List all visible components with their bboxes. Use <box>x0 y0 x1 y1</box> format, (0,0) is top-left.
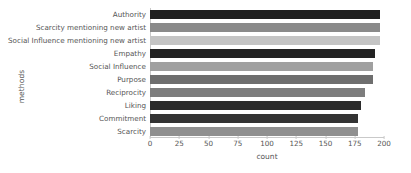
x-axis-tick-labels: 0255075100125150175200 <box>150 139 384 151</box>
bar <box>150 127 358 135</box>
x-axis-tick-mark <box>384 136 385 139</box>
x-axis-tick-mark <box>296 136 297 139</box>
x-axis-tick-label: 150 <box>319 139 333 148</box>
x-axis-tick-mark <box>325 136 326 139</box>
y-axis-tick-label: Social Influence <box>0 62 146 71</box>
y-axis-tick-label: Empathy <box>0 49 146 58</box>
x-axis-tick-mark <box>208 136 209 139</box>
bar <box>150 75 373 83</box>
x-axis-tick-label: 0 <box>148 139 153 148</box>
bar-row <box>150 73 384 86</box>
x-axis-tick-mark <box>354 136 355 139</box>
x-axis-tick-mark <box>179 136 180 139</box>
bar <box>150 23 380 31</box>
x-axis-tick-label: 125 <box>289 139 303 148</box>
x-axis-tick-mark <box>150 136 151 139</box>
plot-area <box>150 8 384 138</box>
bar <box>150 101 361 109</box>
bar-chart: methods AuthorityScarcity mentioning new… <box>0 0 411 173</box>
x-axis-tick-label: 100 <box>260 139 274 148</box>
bar-row <box>150 86 384 99</box>
y-axis-tick-label: Authority <box>0 10 146 19</box>
bar-row <box>150 47 384 60</box>
bar-row <box>150 99 384 112</box>
y-axis-tick-labels: AuthorityScarcity mentioning new artistS… <box>0 8 147 138</box>
x-axis-tick-label: 75 <box>233 139 242 148</box>
x-axis-tick-label: 200 <box>377 139 391 148</box>
y-axis-tick-label: Scarcity <box>0 127 146 136</box>
bar-row <box>150 112 384 125</box>
y-axis-tick-label: Social Influence mentioning new artist <box>0 36 146 45</box>
bar-row <box>150 34 384 47</box>
bar-row <box>150 60 384 73</box>
bar <box>150 36 380 44</box>
bar <box>150 88 365 96</box>
y-axis-tick-label: Purpose <box>0 75 146 84</box>
bar <box>150 49 375 57</box>
x-axis-tick-label: 25 <box>175 139 184 148</box>
bar-row <box>150 21 384 34</box>
x-axis-label: count <box>150 152 384 161</box>
bar <box>150 10 380 18</box>
y-axis-tick-label: Reciprocity <box>0 88 146 97</box>
bar <box>150 114 358 122</box>
x-axis-tick-label: 50 <box>204 139 213 148</box>
y-axis-tick-label: Commitment <box>0 114 146 123</box>
bar-row <box>150 8 384 21</box>
y-axis-tick-label: Scarcity mentioning new artist <box>0 23 146 32</box>
y-axis-tick-label: Liking <box>0 101 146 110</box>
bar <box>150 62 373 70</box>
x-axis-tick-mark <box>267 136 268 139</box>
x-axis-tick-mark <box>237 136 238 139</box>
x-axis-tick-label: 175 <box>348 139 362 148</box>
